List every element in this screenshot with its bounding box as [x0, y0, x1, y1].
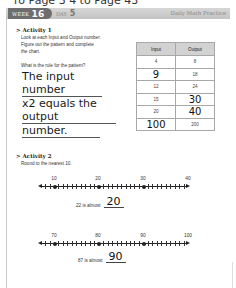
table-header-output: Output — [176, 43, 215, 56]
week-badge: WEEK 16 — [8, 8, 52, 19]
minor-tick — [175, 184, 176, 189]
minor-tick — [170, 184, 171, 189]
activity-1-instructions: Look at each Input and Output number. Fi… — [21, 34, 101, 55]
arrow-left-icon — [38, 184, 42, 188]
minor-tick — [130, 184, 131, 189]
minor-tick — [184, 184, 185, 189]
minor-tick — [58, 184, 59, 189]
table-header-input: Input — [137, 43, 176, 56]
minor-tick — [139, 241, 140, 246]
table-row: 12 24 — [137, 81, 215, 94]
left-margin-rule — [6, 19, 7, 288]
minor-tick — [72, 184, 73, 189]
practice-title: Daily Math Practice — [171, 10, 226, 16]
minor-tick — [85, 241, 86, 246]
minor-tick — [67, 241, 68, 246]
minor-tick — [130, 241, 131, 246]
minor-tick — [72, 241, 73, 246]
minor-tick — [166, 184, 167, 189]
minor-tick — [67, 184, 68, 189]
answer-field[interactable]: 20 — [104, 196, 124, 208]
major-tick — [53, 242, 57, 246]
arrow-right-icon — [186, 184, 190, 188]
day-number: 5 — [70, 9, 76, 18]
right-margin-rule — [232, 262, 233, 288]
minor-tick — [90, 241, 91, 246]
arrow-right-icon — [186, 241, 190, 245]
minor-tick — [45, 241, 46, 246]
minor-tick — [184, 241, 185, 246]
input-output-table: Input Output 4 8 9 18 12 24 15 30 20 40 … — [136, 42, 215, 131]
number-line-1: 10 20 30 40 — [40, 178, 188, 192]
minor-tick — [63, 184, 64, 189]
minor-tick — [108, 241, 109, 246]
minor-tick — [121, 241, 122, 246]
minor-tick — [94, 184, 95, 189]
minor-tick — [117, 184, 118, 189]
minor-tick — [161, 241, 162, 246]
table-row: 20 40 — [137, 106, 215, 119]
minor-tick — [117, 241, 118, 246]
activity-2-instructions: Round to the nearest 10. — [21, 160, 72, 167]
activity-2-title: > Activity 2 — [16, 153, 52, 159]
minor-tick — [121, 184, 122, 189]
minor-tick — [157, 241, 158, 246]
major-tick — [97, 242, 101, 246]
day-label: DAY — [56, 11, 67, 17]
week-label: WEEK — [12, 11, 29, 17]
week-number: 16 — [31, 9, 44, 19]
table-row: 100 200 — [137, 118, 215, 131]
activity-1-question: What is the rule for the pattern? — [21, 62, 85, 69]
arrow-left-icon — [38, 241, 42, 245]
activity-1-title: > Activity 1 — [16, 27, 52, 33]
minor-tick — [148, 241, 149, 246]
answer-field[interactable]: 90 — [106, 251, 126, 263]
minor-tick — [148, 184, 149, 189]
minor-tick — [81, 241, 82, 246]
minor-tick — [179, 184, 180, 189]
rounding-answer-1: 22 is almost 20 — [76, 196, 124, 208]
minor-tick — [157, 184, 158, 189]
minor-tick — [166, 241, 167, 246]
minor-tick — [152, 184, 153, 189]
minor-tick — [152, 241, 153, 246]
number-line-2: 70 80 90 100 — [40, 235, 188, 249]
minor-tick — [76, 241, 77, 246]
minor-tick — [58, 241, 59, 246]
major-tick — [97, 185, 101, 189]
minor-tick — [134, 241, 135, 246]
minor-tick — [50, 184, 51, 189]
minor-tick — [103, 184, 104, 189]
cut-off-heading: ro Page 3 4 to Page 43 — [14, 0, 138, 7]
minor-tick — [90, 184, 91, 189]
minor-tick — [108, 184, 109, 189]
minor-tick — [76, 184, 77, 189]
major-tick — [53, 185, 57, 189]
minor-tick — [63, 241, 64, 246]
minor-tick — [126, 184, 127, 189]
handwritten-answer[interactable]: The input number x2 equals the output nu… — [22, 70, 116, 138]
table-row: 4 8 — [137, 56, 215, 69]
minor-tick — [126, 241, 127, 246]
minor-tick — [81, 184, 82, 189]
minor-tick — [45, 184, 46, 189]
major-tick — [142, 242, 146, 246]
table-row: 9 18 — [137, 68, 215, 81]
minor-tick — [161, 184, 162, 189]
minor-tick — [170, 241, 171, 246]
table-row: 15 30 — [137, 93, 215, 106]
major-tick — [142, 185, 146, 189]
minor-tick — [112, 241, 113, 246]
minor-tick — [50, 241, 51, 246]
minor-tick — [139, 184, 140, 189]
minor-tick — [179, 241, 180, 246]
minor-tick — [85, 184, 86, 189]
minor-tick — [175, 241, 176, 246]
rounding-answer-2: 87 is almost 90 — [78, 251, 126, 263]
minor-tick — [134, 184, 135, 189]
day-badge: DAY 5 — [56, 9, 75, 18]
minor-tick — [94, 241, 95, 246]
minor-tick — [112, 184, 113, 189]
minor-tick — [103, 241, 104, 246]
